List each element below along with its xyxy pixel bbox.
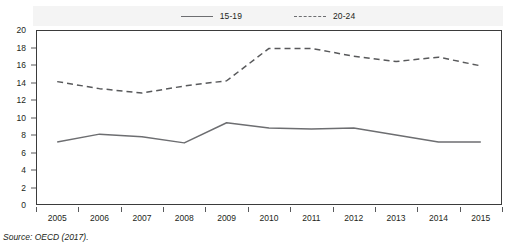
y-tick-label: 8 — [21, 130, 26, 140]
y-tick-label: 0 — [21, 200, 26, 210]
y-tick-label: 2 — [21, 183, 26, 193]
legend-label-15-19: 15-19 — [220, 11, 242, 21]
x-tick-mark — [36, 207, 37, 212]
y-tick-label: 16 — [17, 60, 26, 70]
x-tick-label: 2006 — [90, 213, 109, 223]
y-axis: 02468101214161820 — [0, 30, 32, 205]
y-tick-label: 6 — [21, 148, 26, 158]
series-line-15-19 — [57, 123, 481, 143]
x-tick-mark — [121, 207, 122, 212]
x-tick-mark — [417, 207, 418, 212]
x-tick-mark — [78, 207, 79, 212]
x-axis: 2005200620072008200920102011201220132014… — [36, 207, 502, 227]
x-tick-mark — [163, 207, 164, 212]
y-tick-label: 18 — [17, 43, 26, 53]
chart-figure: 15-19 20-24 02468101214161820 2005200620… — [0, 0, 515, 250]
y-tick-label: 20 — [17, 25, 26, 35]
legend-entry-15-19: 15-19 — [181, 11, 242, 21]
x-tick-label: 2013 — [387, 213, 406, 223]
y-tick-label: 14 — [17, 78, 26, 88]
y-tick-label: 12 — [17, 95, 26, 105]
x-tick-label: 2012 — [344, 213, 363, 223]
x-tick-label: 2009 — [217, 213, 236, 223]
x-tick-mark — [205, 207, 206, 212]
series-layer — [36, 30, 502, 205]
x-tick-label: 2007 — [132, 213, 151, 223]
y-tick-label: 10 — [17, 113, 26, 123]
legend-line-solid-icon — [181, 16, 213, 17]
x-tick-mark — [290, 207, 291, 212]
x-tick-label: 2008 — [175, 213, 194, 223]
series-line-20-24 — [57, 48, 481, 93]
x-tick-mark — [502, 207, 503, 212]
legend-label-20-24: 20-24 — [333, 11, 355, 21]
x-tick-mark — [248, 207, 249, 212]
x-tick-mark — [375, 207, 376, 212]
legend-entry-20-24: 20-24 — [294, 11, 355, 21]
x-tick-label: 2011 — [302, 213, 320, 223]
x-tick-label: 2005 — [48, 213, 67, 223]
x-tick-label: 2014 — [429, 213, 448, 223]
y-tick-label: 4 — [21, 165, 26, 175]
source-note: Source: OECD (2017). — [3, 232, 89, 242]
legend-line-dashed-icon — [294, 16, 326, 17]
x-tick-label: 2015 — [471, 213, 490, 223]
chart-legend: 15-19 20-24 — [33, 6, 503, 26]
x-tick-label: 2010 — [260, 213, 279, 223]
x-tick-mark — [460, 207, 461, 212]
x-tick-mark — [333, 207, 334, 212]
